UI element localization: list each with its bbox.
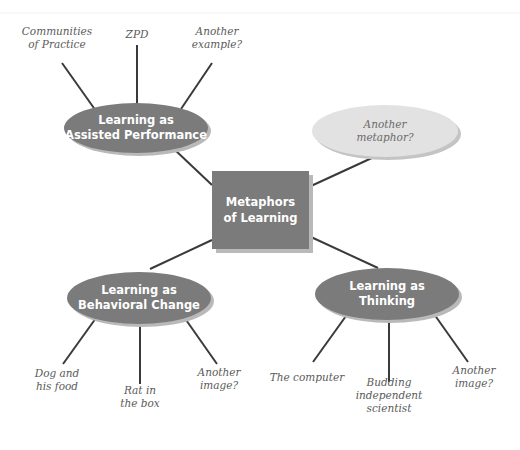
example-label: Budding: [366, 376, 412, 388]
edge-behavioral-change-example-0: [63, 318, 96, 364]
concept-map: Learning asAssisted PerformanceAnotherme…: [0, 0, 520, 450]
example-label: of Practice: [28, 38, 85, 50]
metaphor-node-behavioral-change: Learning asBehavioral Change: [67, 272, 214, 327]
edge-assisted-performance-example-2: [181, 63, 212, 109]
node-label: metaphor?: [356, 131, 413, 143]
node-label: Another: [363, 118, 408, 130]
metaphor-node-another-metaphor: Anothermetaphor?: [312, 105, 461, 160]
example-label: Dog and: [34, 367, 80, 379]
example-label: image?: [200, 379, 239, 391]
example-label: ZPD: [125, 28, 149, 40]
node-label: Learning as: [98, 113, 174, 127]
edge-center-to-behavioral-change: [150, 240, 212, 269]
center-label: of Learning: [223, 211, 297, 225]
example-label: his food: [36, 380, 78, 392]
edge-center-to-another-metaphor: [311, 157, 374, 186]
metaphor-node-thinking: Learning asThinking: [315, 268, 462, 323]
example-label: example?: [192, 38, 243, 50]
example-label: image?: [455, 377, 494, 389]
example-label: Another: [452, 364, 497, 376]
node-label: Learning as: [101, 283, 177, 297]
edge-behavioral-change-example-2: [184, 317, 217, 364]
example-label: Communities: [22, 25, 93, 37]
example-label: Rat in: [123, 384, 156, 396]
example-label: independent: [356, 389, 423, 401]
edge-thinking-example-2: [434, 314, 468, 362]
edge-center-to-assisted-performance: [175, 150, 212, 185]
metaphor-node-assisted-performance: Learning asAssisted Performance: [64, 103, 211, 156]
example-label: scientist: [367, 402, 413, 414]
edge-assisted-performance-example-0: [62, 63, 96, 111]
example-label: Another: [197, 366, 242, 378]
example-label: The computer: [270, 371, 345, 383]
node-label: Assisted Performance: [65, 128, 207, 142]
example-label: the box: [120, 397, 160, 409]
node-label: Behavioral Change: [78, 298, 200, 312]
node-label: Thinking: [359, 294, 415, 308]
central-node: Metaphorsof Learning: [212, 171, 313, 253]
node-label: Learning as: [349, 279, 425, 293]
edge-thinking-example-0: [313, 316, 346, 362]
center-label: Metaphors: [226, 195, 295, 209]
example-label: Another: [195, 25, 240, 37]
edge-center-to-thinking: [311, 237, 378, 268]
